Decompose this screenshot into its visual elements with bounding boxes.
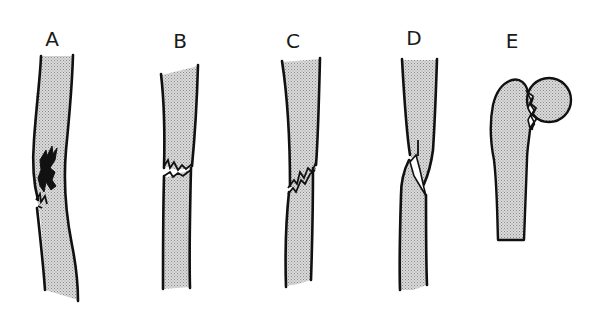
bone-d bbox=[399, 59, 437, 290]
bone-b bbox=[161, 65, 198, 289]
bone-c bbox=[282, 58, 320, 287]
bone-a bbox=[33, 55, 78, 301]
bone-e bbox=[491, 78, 571, 240]
